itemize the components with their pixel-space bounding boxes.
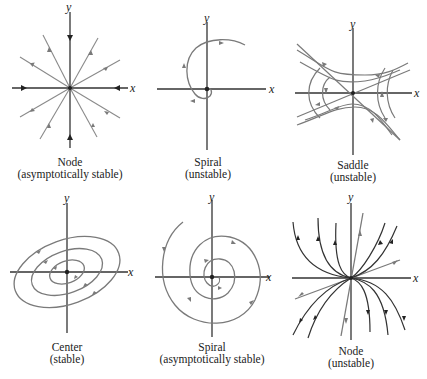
x-axis-label: x (269, 82, 274, 97)
panel-node-unstable (292, 203, 411, 340)
panel-center (4, 203, 129, 333)
caption-stability: (unstable) (278, 171, 427, 183)
caption-stability: (unstable) (133, 168, 283, 180)
y-axis-label: y (66, 0, 71, 15)
panel-node-stable (12, 12, 128, 148)
caption-saddle: Saddle (unstable) (278, 159, 427, 183)
caption-name: Saddle (278, 159, 427, 171)
caption-spiral-stable: Spiral (asymptotically stable) (137, 341, 287, 365)
y-axis-label: y (209, 190, 214, 205)
caption-center: Center (stable) (0, 341, 142, 365)
panel-saddle (295, 28, 412, 155)
caption-node-stable: Node (asymptotically stable) (0, 156, 145, 180)
caption-name: Node (276, 345, 426, 357)
caption-stability: (unstable) (276, 357, 426, 369)
x-axis-label: x (266, 270, 271, 285)
caption-name: Spiral (133, 156, 283, 168)
caption-spiral-unstable: Spiral (unstable) (133, 156, 283, 180)
x-axis-label: x (128, 265, 133, 280)
y-axis-label: y (204, 11, 209, 26)
x-axis-label: x (413, 271, 418, 286)
caption-node-unstable: Node (unstable) (276, 345, 426, 369)
caption-name: Node (0, 156, 145, 168)
panel-spiral-unstable (157, 22, 266, 150)
caption-stability: (asymptotically stable) (0, 168, 145, 180)
caption-stability: (stable) (0, 353, 142, 365)
y-axis-label: y (348, 190, 353, 205)
x-axis-label: x (130, 81, 135, 96)
caption-name: Center (0, 341, 142, 353)
y-axis-label: y (350, 17, 355, 32)
caption-stability: (asymptotically stable) (137, 353, 287, 365)
x-axis-label: x (414, 86, 419, 101)
y-axis-label: y (64, 191, 69, 206)
caption-name: Spiral (137, 341, 287, 353)
panel-spiral-stable (155, 200, 270, 337)
